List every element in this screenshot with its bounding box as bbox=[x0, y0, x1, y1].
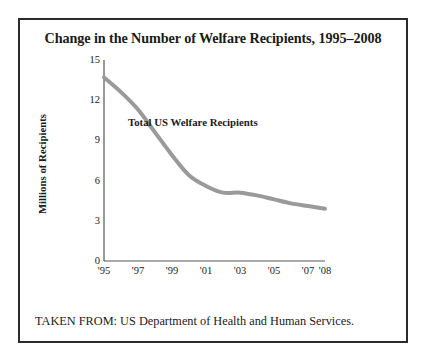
x-axis-tick-label: '97 bbox=[121, 266, 155, 277]
source-note: TAKEN FROM: US Department of Health and … bbox=[35, 314, 354, 329]
series-line-total-us-welfare-recipients bbox=[104, 77, 325, 208]
figure-frame: Change in the Number of Welfare Recipien… bbox=[18, 18, 408, 343]
x-axis-tick-labels: '95'97'99'01'03'05'07'08 bbox=[20, 266, 406, 286]
series-annotation-label: Total US Welfare Recipients bbox=[128, 116, 258, 128]
chart-plot-area: Millions of Recipients 03691215 Total US… bbox=[20, 58, 406, 308]
x-axis-tick-label: '03 bbox=[223, 266, 257, 277]
x-axis-tick-label: '99 bbox=[155, 266, 189, 277]
x-axis-tick-label: '01 bbox=[189, 266, 223, 277]
x-axis-tick-label: '08 bbox=[308, 266, 342, 277]
page-title: Change in the Number of Welfare Recipien… bbox=[20, 30, 406, 47]
x-axis-tick-label: '05 bbox=[257, 266, 291, 277]
x-axis-tick-label: '95 bbox=[87, 266, 121, 277]
